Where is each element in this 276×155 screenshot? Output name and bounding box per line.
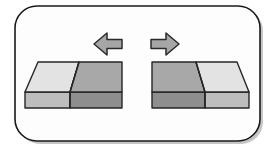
- illustration-canvas: [0, 0, 276, 155]
- block-left-segment-dark-front: [70, 92, 122, 108]
- block-right-segment-light-front: [205, 92, 249, 108]
- block-left: [25, 62, 122, 108]
- split-block-diagram: [0, 0, 276, 155]
- block-right: [152, 62, 249, 108]
- block-right-segment-dark-front: [152, 92, 205, 108]
- block-left-segment-light-front: [25, 92, 70, 108]
